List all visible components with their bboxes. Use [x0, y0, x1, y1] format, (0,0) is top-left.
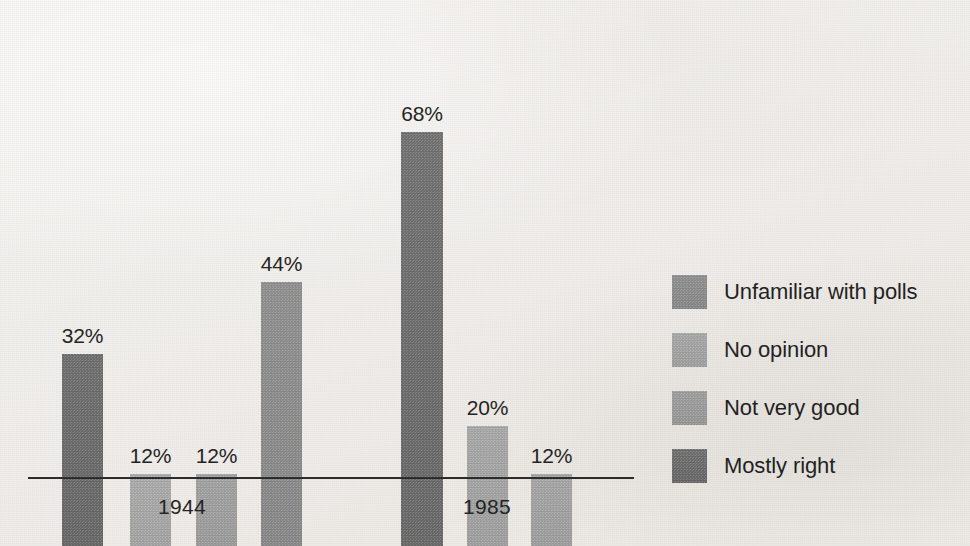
- legend-label: Mostly right: [724, 453, 835, 479]
- bar-value-label: 12%: [130, 444, 171, 468]
- bar-fill: [62, 354, 103, 546]
- bar-value-label: 12%: [196, 444, 237, 468]
- legend-swatch-icon: [672, 275, 707, 309]
- legend-item-no-opinion: No opinion: [672, 333, 828, 367]
- bar-value-label: 20%: [467, 396, 508, 420]
- chart-legend: Unfamiliar with polls No opinion Not ver…: [672, 275, 962, 480]
- bar-value-label: 68%: [401, 102, 442, 126]
- legend-label: Unfamiliar with polls: [724, 279, 918, 305]
- bar-1944-unfamiliar-with-polls: 44%: [261, 282, 302, 546]
- bar-1985-mostly-right: 68%: [401, 132, 443, 546]
- legend-swatch-icon: [672, 449, 707, 483]
- bar-value-label: 44%: [261, 252, 302, 276]
- bar-fill: [401, 132, 443, 546]
- legend-label: Not very good: [724, 395, 860, 421]
- bar-1944-mostly-right: 32%: [62, 354, 103, 546]
- bar-value-label: 12%: [531, 444, 572, 468]
- bar-fill: [531, 474, 572, 546]
- bar-value-label: 32%: [62, 324, 103, 348]
- bar-1985-no-opinion: 12%: [531, 474, 572, 546]
- bar-fill: [467, 426, 508, 546]
- legend-swatch-icon: [672, 391, 707, 425]
- bar-fill: [261, 282, 302, 546]
- legend-swatch-icon: [672, 333, 707, 367]
- axis-group-label-1985: 1985: [463, 495, 511, 519]
- axis-group-label-1944: 1944: [158, 495, 206, 519]
- legend-item-mostly-right: Mostly right: [672, 449, 835, 483]
- legend-item-not-very-good: Not very good: [672, 391, 860, 425]
- legend-label: No opinion: [724, 337, 828, 363]
- legend-item-unfamiliar-with-polls: Unfamiliar with polls: [672, 275, 918, 309]
- x-axis-line: [28, 477, 634, 479]
- bar-1985-not-very-good: 20%: [467, 426, 508, 546]
